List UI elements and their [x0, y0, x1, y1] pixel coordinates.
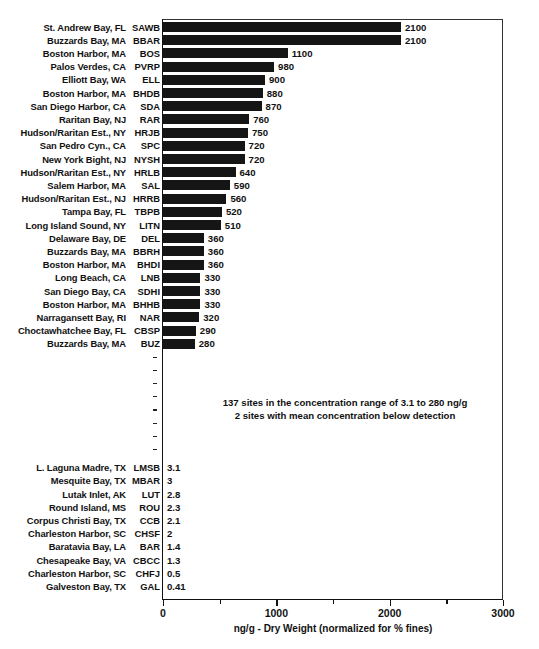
bar-value-label: 290: [200, 324, 216, 337]
bar: [163, 326, 196, 336]
bar: [163, 194, 226, 204]
site-name-label: Buzzards Bay, MA: [0, 34, 126, 47]
bar: [163, 101, 262, 111]
bar-value-label: 0.41: [167, 580, 186, 593]
bar-value-label: 360: [208, 245, 224, 258]
site-code-label: SDHI: [126, 285, 160, 298]
bar: [163, 62, 274, 72]
site-name-label: Buzzards Bay, MA: [0, 245, 126, 258]
site-name-label: San Diego Bay, CA: [0, 285, 126, 298]
site-code-label: TBPB: [126, 205, 160, 218]
bar: [163, 220, 221, 230]
bar-row: San Diego Bay, CASDHI330: [0, 285, 539, 298]
site-code-label: LUT: [126, 488, 160, 501]
site-name-label: Baratavia Bay, LA: [0, 540, 126, 553]
site-name-label: Palos Verdes, CA: [0, 60, 126, 73]
dash-glyph: [153, 396, 157, 397]
site-code-label: BBAR: [126, 34, 160, 47]
site-name-label: Boston Harbor, MA: [0, 47, 126, 60]
site-code-label: BAR: [126, 540, 160, 553]
x-tick: [276, 600, 277, 606]
bar: [163, 114, 249, 124]
site-name-label: New York Bight, NJ: [0, 153, 126, 166]
bar: [163, 75, 265, 85]
site-name-label: Chesapeake Bay, VA: [0, 554, 126, 567]
bar-row: Long Beach, CALNB330: [0, 271, 539, 284]
bar-row: Baratavia Bay, LABAR1.4: [0, 540, 539, 553]
bar: [163, 286, 200, 296]
dash-glyph: [153, 409, 157, 410]
site-code-label: BBRH: [126, 245, 160, 258]
site-name-label: Corpus Christi Bay, TX: [0, 514, 126, 527]
bar: [163, 35, 401, 45]
site-name-label: Hudson/Raritan Est., NY: [0, 126, 126, 139]
site-code-label: DEL: [126, 232, 160, 245]
bar-value-label: 320: [203, 311, 219, 324]
site-code-label: LITN: [126, 219, 160, 232]
bar-value-label: 1.4: [167, 540, 180, 553]
x-tick-minor: [446, 600, 447, 604]
bar-value-label: 1100: [292, 47, 313, 60]
x-tick-label: 2000: [378, 607, 401, 619]
x-tick-label: 1000: [265, 607, 288, 619]
bar-row: New York Bight, NJNYSH720: [0, 153, 539, 166]
site-code-label: GAL: [126, 580, 160, 593]
x-tick: [390, 600, 391, 606]
bar-value-label: 2.8: [167, 488, 180, 501]
bar: [163, 260, 204, 270]
bar: [163, 167, 236, 177]
site-code-label: CBCC: [126, 554, 160, 567]
bar-value-label: 360: [208, 258, 224, 271]
site-code-label: SDA: [126, 100, 160, 113]
dash-glyph: [153, 370, 157, 371]
site-name-label: Long Island Sound, NY: [0, 219, 126, 232]
bar-value-label: 720: [249, 153, 265, 166]
bar: [163, 180, 230, 190]
site-name-label: Salem Harbor, MA: [0, 179, 126, 192]
site-code-label: NAR: [126, 311, 160, 324]
bar-row: Buzzards Bay, MABBRH360: [0, 245, 539, 258]
bar: [163, 339, 195, 349]
bar-value-label: 2100: [405, 34, 426, 47]
bar-row: Hudson/Raritan Est., NJHRRB560: [0, 192, 539, 205]
bar-row: Corpus Christi Bay, TXCCB2.1: [0, 514, 539, 527]
site-name-label: San Pedro Cyn., CA: [0, 139, 126, 152]
site-name-label: Mesquite Bay, TX: [0, 474, 126, 487]
bar-value-label: 880: [267, 87, 283, 100]
bar-value-label: 640: [240, 166, 256, 179]
bar-row: Tampa Bay, FLTBPB520: [0, 205, 539, 218]
site-code-label: CHSF: [126, 527, 160, 540]
bar-row: Hudson/Raritan Est., NYHRJB750: [0, 126, 539, 139]
bar-row: Boston Harbor, MABHHB330: [0, 298, 539, 311]
bar-value-label: 360: [208, 232, 224, 245]
bar: [163, 22, 401, 32]
site-code-label: HRJB: [126, 126, 160, 139]
site-name-label: Hudson/Raritan Est., NJ: [0, 192, 126, 205]
bar-value-label: 750: [252, 126, 268, 139]
bar: [163, 299, 200, 309]
bar-row: Long Island Sound, NYLITN510: [0, 219, 539, 232]
site-code-label: ROU: [126, 501, 160, 514]
bar-value-label: 3.1: [167, 461, 180, 474]
bar: [163, 141, 245, 151]
bar: [163, 128, 248, 138]
bar-row: Boston Harbor, MABHDB880: [0, 87, 539, 100]
site-code-label: CBSP: [126, 324, 160, 337]
bar-row: Buzzards Bay, MABUZ280: [0, 337, 539, 350]
bar-row: San Pedro Cyn., CASPC720: [0, 139, 539, 152]
dash-glyph: [153, 423, 157, 424]
site-name-label: Galveston Bay, TX: [0, 580, 126, 593]
bar-value-label: 330: [204, 298, 220, 311]
bar-value-label: 900: [269, 73, 285, 86]
x-axis-title: ng/g - Dry Weight (normalized for % fine…: [163, 623, 503, 634]
annotation-line-1: 137 sites in the concentration range of …: [200, 397, 490, 410]
site-name-label: Charleston Harbor, SC: [0, 567, 126, 580]
x-tick-minor: [333, 600, 334, 604]
site-name-label: Boston Harbor, MA: [0, 87, 126, 100]
bar-row: Hudson/Raritan Est., NYHRLB640: [0, 166, 539, 179]
site-name-label: Delaware Bay, DE: [0, 232, 126, 245]
bar-row: Lutak Inlet, AKLUT2.8: [0, 488, 539, 501]
x-tick-minor: [220, 600, 221, 604]
bar-value-label: 330: [204, 271, 220, 284]
site-name-label: St. Andrew Bay, FL: [0, 21, 126, 34]
